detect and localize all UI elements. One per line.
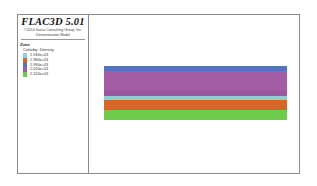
legend-divider xyxy=(88,14,89,174)
legend-value: 2.120e+03 xyxy=(30,72,48,77)
zone-model-view[interactable] xyxy=(104,66,287,120)
app-title: FLAC3D 5.01 xyxy=(18,16,88,28)
model-name: Demonstration Model xyxy=(18,33,88,38)
legend-rule xyxy=(21,39,85,40)
legend-items: 1.940e+03 1.980e+03 1.990e+03 2.010e+03 … xyxy=(23,53,88,77)
legend-panel: FLAC3D 5.01 ©2014 Itasca Consulting Grou… xyxy=(18,15,88,77)
color-swatch xyxy=(23,72,27,77)
legend-item: 2.120e+03 xyxy=(23,72,88,77)
band-green xyxy=(104,110,287,120)
colorby-label: Colorby: Density xyxy=(23,47,88,52)
band-purple xyxy=(104,71,287,91)
band-orange xyxy=(104,100,287,110)
